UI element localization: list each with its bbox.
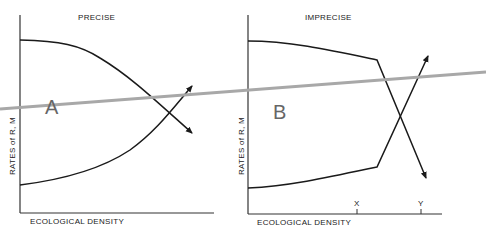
panel-b-xlabel: ECOLOGICAL DENSITY [257, 218, 351, 227]
panel-a-xlabel: ECOLOGICAL DENSITY [30, 217, 124, 226]
tick-x-label: X [354, 199, 360, 208]
diagram-canvas [0, 0, 486, 230]
panel-a-title: PRECISE [78, 13, 115, 22]
panel-b-letter: B [273, 101, 286, 124]
panel-b-title: IMPRECISE [305, 13, 352, 22]
panel-a-letter: A [45, 96, 58, 119]
panel-a-decreasing-curve [20, 40, 192, 133]
panel-b-ylabel: RATES of R, M [237, 117, 246, 175]
panel-a-ylabel: RATES of R, M [8, 117, 17, 175]
tick-y-label: Y [418, 199, 424, 208]
overlay-gray-line [0, 72, 486, 109]
